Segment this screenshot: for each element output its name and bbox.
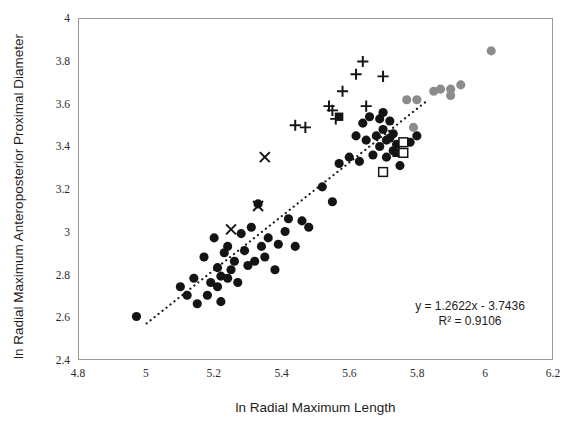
data-point [412, 131, 421, 140]
r-squared-text: R² = 0.9106 [395, 314, 545, 329]
dotted-regression-line [147, 101, 427, 324]
data-point [297, 216, 306, 225]
data-point [257, 242, 266, 251]
data-point [456, 80, 465, 89]
data-point [210, 233, 219, 242]
data-point [365, 112, 374, 121]
y-tick-label: 4 [32, 12, 70, 24]
data-point [375, 142, 384, 151]
data-point [281, 227, 290, 236]
x-tick-label: 5.4 [274, 367, 288, 379]
data-point [355, 157, 364, 166]
data-point [412, 95, 421, 104]
data-point [230, 257, 239, 266]
data-point [237, 229, 246, 238]
data-point [382, 153, 391, 162]
x-tick-label: 4.8 [71, 367, 85, 379]
data-point [284, 214, 293, 223]
data-point [223, 274, 232, 283]
y-tick-label: 2.8 [32, 269, 70, 281]
data-point [318, 182, 327, 191]
data-point [203, 291, 212, 300]
data-point [357, 56, 368, 67]
data-point [337, 86, 348, 97]
x-tick-label: 5.2 [207, 367, 221, 379]
data-point [379, 168, 388, 177]
plus-markers [290, 56, 389, 133]
data-point [290, 120, 301, 131]
data-point [216, 297, 225, 306]
data-point [350, 69, 361, 80]
x-tick-label: 5 [143, 367, 149, 379]
data-point [395, 161, 404, 170]
data-point [351, 131, 360, 140]
black-filled-circles [132, 108, 422, 321]
data-point [132, 312, 141, 321]
data-point [193, 299, 202, 308]
x-tick-label: 6 [482, 367, 488, 379]
data-point [304, 223, 313, 232]
data-point [264, 233, 273, 242]
y-tick-label: 2.4 [32, 354, 70, 366]
scatter-plot-figure: 2.42.62.833.23.43.63.84 4.855.25.45.65.8… [0, 0, 575, 435]
data-point [233, 278, 242, 287]
data-point [226, 224, 236, 234]
data-point [247, 223, 256, 232]
data-point [226, 265, 235, 274]
data-point [274, 240, 283, 249]
data-point [300, 122, 311, 133]
data-point [270, 265, 279, 274]
data-point [358, 119, 367, 128]
data-point [260, 152, 270, 162]
x-tick-label: 5.8 [410, 367, 424, 379]
data-point [372, 131, 381, 140]
data-point [399, 149, 408, 158]
data-point [250, 257, 259, 266]
data-point [189, 274, 198, 283]
y-axis-title: ln Radial Maximum Anteroposterior Proxim… [11, 27, 26, 367]
data-point [345, 153, 354, 162]
y-tick-label: 3.6 [32, 98, 70, 110]
data-point [291, 242, 300, 251]
data-point [362, 136, 371, 145]
data-point [240, 246, 249, 255]
data-point [223, 242, 232, 251]
regression-equation-text: y = 1.2622x - 3.7436 [395, 299, 545, 314]
data-point [335, 159, 344, 168]
data-point [487, 46, 496, 55]
data-point [409, 123, 418, 132]
gray-filled-circles [402, 46, 496, 132]
x-axis-title: ln Radial Maximum Length [78, 400, 553, 415]
x-markers [226, 152, 270, 234]
data-point [378, 125, 387, 134]
data-point [378, 108, 387, 117]
data-point [446, 91, 455, 100]
data-point [183, 291, 192, 300]
data-point [213, 263, 222, 272]
data-point [260, 252, 269, 261]
data-point [389, 129, 398, 138]
data-point [436, 85, 445, 94]
data-point [328, 197, 337, 206]
data-point [377, 71, 388, 82]
data-point [176, 282, 185, 291]
x-tick-label: 5.6 [342, 367, 356, 379]
x-tick-label: 6.2 [546, 367, 560, 379]
y-tick-label: 3.4 [32, 140, 70, 152]
data-point [402, 95, 411, 104]
y-tick-label: 3.8 [32, 55, 70, 67]
y-tick-label: 2.6 [32, 311, 70, 323]
data-point [199, 252, 208, 261]
data-point [361, 101, 372, 112]
data-point [368, 150, 377, 159]
y-tick-label: 3.2 [32, 183, 70, 195]
data-point [213, 282, 222, 291]
data-point [335, 113, 343, 121]
data-point [399, 138, 408, 147]
regression-annotation: y = 1.2622x - 3.7436 R² = 0.9106 [395, 299, 545, 329]
y-tick-label: 3 [32, 226, 70, 238]
data-point [385, 116, 394, 125]
